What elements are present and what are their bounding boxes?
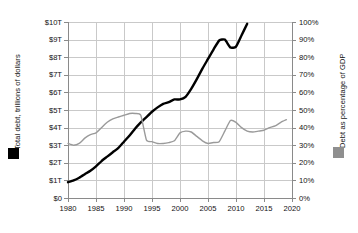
y-axis-left-tick-label: $0	[28, 194, 62, 203]
y-axis-right-tick-label: 80%	[299, 53, 333, 62]
y-axis-left-tick-label: $2T	[28, 158, 62, 167]
y-axis-left-tick-label: $4T	[28, 123, 62, 132]
y-axis-right-tick-label: 40%	[299, 123, 333, 132]
grid-lines	[68, 22, 293, 199]
y-axis-right-tick-label: 20%	[299, 158, 333, 167]
y-axis-right-tick-label: 70%	[299, 70, 333, 79]
data-series	[68, 24, 286, 182]
y-axis-right-tick-label: 0%	[299, 194, 333, 203]
y-axis-left-tick-label: $1T	[28, 176, 62, 185]
y-axis-left-tick-label: $10T	[28, 18, 62, 27]
series-line-total-debt	[68, 24, 247, 182]
y-axis-right-tick-label: 100%	[299, 18, 333, 27]
series-line-debt-pct-gdp	[68, 113, 286, 145]
y-axis-right-tick-label: 60%	[299, 88, 333, 97]
y-axis-left-tick-label: $8T	[28, 53, 62, 62]
y-axis-right-tick-label: 50%	[299, 106, 333, 115]
y-axis-left-tick-label: $5T	[28, 106, 62, 115]
x-axis-tick-label: 2020	[275, 204, 309, 213]
debt-chart: Total debt, trillions of dollars Debt as…	[0, 0, 358, 233]
y-axis-right-tick-label: 30%	[299, 141, 333, 150]
y-axis-right-tick-label: 90%	[299, 35, 333, 44]
y-axis-left-tick-label: $7T	[28, 70, 62, 79]
y-axis-right-tick-label: 10%	[299, 176, 333, 185]
y-axis-left-tick-label: $9T	[28, 35, 62, 44]
y-axis-left-tick-label: $3T	[28, 141, 62, 150]
y-axis-left-tick-label: $6T	[28, 88, 62, 97]
